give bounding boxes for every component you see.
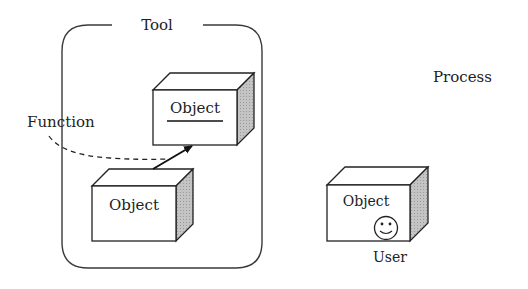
- object-bottom-label: Object: [109, 196, 159, 214]
- object-bottom[interactable]: Object: [92, 169, 193, 241]
- smiley-face-icon: [375, 217, 398, 240]
- object-user-label: Object: [343, 193, 390, 209]
- object-top-label: Object: [170, 99, 220, 117]
- tool-label: Tool: [141, 16, 173, 34]
- function-dashed-curve: [49, 136, 168, 159]
- relation-arrow: [153, 146, 192, 169]
- object-top[interactable]: Object: [153, 73, 254, 145]
- process-label: Process: [433, 68, 492, 86]
- object-user[interactable]: Object: [327, 167, 428, 241]
- function-label: Function: [27, 113, 95, 131]
- user-caption: User: [373, 249, 407, 265]
- diagram-canvas: Tool Object Object Function Process Obje…: [0, 0, 528, 289]
